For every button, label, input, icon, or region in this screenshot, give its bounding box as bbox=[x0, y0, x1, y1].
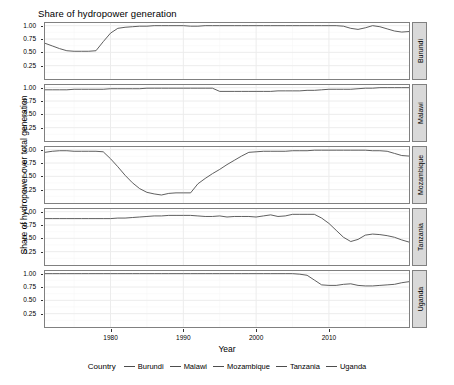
legend-line-icon bbox=[326, 366, 337, 367]
y-tick-label: 0.50 bbox=[2, 49, 36, 56]
y-tick-mark bbox=[41, 190, 43, 191]
y-tick-label: 0.75 bbox=[2, 160, 36, 167]
legend-item-label: Uganda bbox=[340, 362, 366, 371]
facet-strip-mozambique: Mozambique bbox=[412, 146, 427, 204]
legend-line-icon bbox=[276, 366, 287, 367]
facet-strip-label: Mozambique bbox=[416, 155, 423, 195]
y-tick-label: 0.75 bbox=[2, 284, 36, 291]
legend-item-uganda[interactable]: Uganda bbox=[326, 362, 366, 371]
y-tick-mark bbox=[41, 88, 43, 89]
facet-strip-label: Tanzania bbox=[416, 223, 423, 251]
y-tick-mark bbox=[41, 212, 43, 213]
y-tick-mark bbox=[41, 300, 43, 301]
legend-item-label: Malawi bbox=[184, 362, 207, 371]
facet-strip-uganda: Uganda bbox=[412, 270, 427, 328]
y-tick-label: 0.50 bbox=[2, 111, 36, 118]
y-tick-label: 1.00 bbox=[2, 147, 36, 154]
y-tick-mark bbox=[41, 225, 43, 226]
y-tick-mark bbox=[41, 52, 43, 53]
facet-panel-burundi bbox=[44, 22, 410, 80]
y-tick-mark bbox=[41, 39, 43, 40]
y-tick-label: 0.75 bbox=[2, 36, 36, 43]
x-tick-mark bbox=[183, 329, 184, 332]
facet-panel-uganda bbox=[44, 270, 410, 328]
legend-title: Country bbox=[88, 362, 116, 371]
series-line-malawi bbox=[45, 88, 409, 92]
x-axis-title: Year bbox=[44, 344, 410, 354]
y-tick-label: 1.00 bbox=[2, 271, 36, 278]
y-tick-label: 0.75 bbox=[2, 222, 36, 229]
y-tick-mark bbox=[41, 128, 43, 129]
legend: Country BurundiMalawiMozambiqueTanzaniaU… bbox=[0, 362, 454, 371]
y-tick-label: 0.75 bbox=[2, 98, 36, 105]
y-tick-mark bbox=[41, 163, 43, 164]
series-line-burundi bbox=[45, 26, 409, 52]
series-line-uganda bbox=[45, 274, 409, 286]
y-tick-mark bbox=[41, 252, 43, 253]
x-tick-label: 1990 bbox=[176, 334, 190, 341]
facet-panel-malawi bbox=[44, 84, 410, 142]
facet-strip-malawi: Malawi bbox=[412, 84, 427, 142]
y-tick-label: 0.25 bbox=[2, 187, 36, 194]
y-tick-mark bbox=[41, 176, 43, 177]
chart-title: Share of hydropower generation bbox=[38, 8, 177, 19]
legend-line-icon bbox=[170, 366, 181, 367]
x-tick-label: 2000 bbox=[249, 334, 263, 341]
legend-item-malawi[interactable]: Malawi bbox=[170, 362, 207, 371]
x-tick-label: 2010 bbox=[322, 334, 336, 341]
y-tick-label: 1.00 bbox=[2, 209, 36, 216]
x-tick-mark bbox=[111, 329, 112, 332]
facet-panel-tanzania bbox=[44, 208, 410, 266]
y-tick-label: 0.50 bbox=[2, 297, 36, 304]
y-tick-mark bbox=[41, 314, 43, 315]
y-tick-mark bbox=[41, 287, 43, 288]
legend-line-icon bbox=[213, 366, 224, 367]
x-tick-mark bbox=[256, 329, 257, 332]
legend-item-mozambique[interactable]: Mozambique bbox=[213, 362, 270, 371]
x-tick-label: 1980 bbox=[103, 334, 117, 341]
x-tick-mark bbox=[329, 329, 330, 332]
facet-strip-label: Uganda bbox=[416, 287, 423, 312]
y-tick-label: 0.25 bbox=[2, 249, 36, 256]
y-tick-mark bbox=[41, 66, 43, 67]
y-tick-label: 0.25 bbox=[2, 125, 36, 132]
y-tick-mark bbox=[41, 238, 43, 239]
y-tick-label: 1.00 bbox=[2, 85, 36, 92]
chart-root: Share of hydropower generation Share of … bbox=[0, 0, 454, 385]
y-tick-label: 0.25 bbox=[2, 63, 36, 70]
y-tick-mark bbox=[41, 101, 43, 102]
legend-line-icon bbox=[124, 366, 135, 367]
y-tick-label: 0.50 bbox=[2, 235, 36, 242]
y-tick-mark bbox=[41, 114, 43, 115]
facet-strip-tanzania: Tanzania bbox=[412, 208, 427, 266]
y-tick-label: 0.25 bbox=[2, 311, 36, 318]
y-tick-label: 0.50 bbox=[2, 173, 36, 180]
facet-strip-burundi: Burundi bbox=[412, 22, 427, 80]
y-tick-label: 1.00 bbox=[2, 23, 36, 30]
y-tick-mark bbox=[41, 26, 43, 27]
legend-item-tanzania[interactable]: Tanzania bbox=[276, 362, 320, 371]
facet-strip-label: Burundi bbox=[416, 39, 423, 63]
y-tick-mark bbox=[41, 274, 43, 275]
series-line-mozambique bbox=[45, 150, 409, 195]
facet-strip-label: Malawi bbox=[416, 102, 423, 124]
legend-item-label: Burundi bbox=[138, 362, 164, 371]
legend-item-label: Mozambique bbox=[227, 362, 270, 371]
legend-item-burundi[interactable]: Burundi bbox=[124, 362, 164, 371]
facet-panel-mozambique bbox=[44, 146, 410, 204]
legend-item-label: Tanzania bbox=[290, 362, 320, 371]
y-tick-mark bbox=[41, 150, 43, 151]
